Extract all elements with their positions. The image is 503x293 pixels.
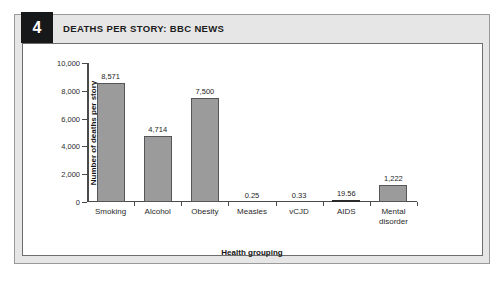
plot-frame: Number of deaths per story Health groupi… xyxy=(22,43,483,256)
x-axis-category-label: Smoking xyxy=(95,207,126,217)
bar-value-label: 7,500 xyxy=(195,87,214,96)
y-axis-tick-label: 4,000 xyxy=(61,142,80,151)
bar-group: 0.25Measles xyxy=(228,63,275,202)
bar-group: 8,571Smoking xyxy=(87,63,134,202)
bar-value-label: 0.25 xyxy=(245,191,260,200)
x-axis-category-label: Alcohol xyxy=(145,207,171,217)
y-axis-tick-label: 10,000 xyxy=(57,59,80,68)
x-axis-tick xyxy=(417,202,418,206)
figure-number-badge: 4 xyxy=(21,12,53,43)
x-axis-tick xyxy=(323,202,324,206)
figure-panel: 4 DEATHS PER STORY: BBC NEWS Number of d… xyxy=(14,14,490,264)
bar-value-label: 19.56 xyxy=(337,189,356,198)
x-axis-title: Health grouping xyxy=(87,248,417,257)
figure-root: 4 DEATHS PER STORY: BBC NEWS Number of d… xyxy=(0,0,503,293)
bar xyxy=(144,136,172,202)
x-axis-tick xyxy=(276,202,277,206)
x-axis-category-label: Measles xyxy=(237,207,267,217)
x-axis-tick xyxy=(370,202,371,206)
figure-title: DEATHS PER STORY: BBC NEWS xyxy=(63,23,224,34)
bar xyxy=(97,83,125,202)
x-axis-tick xyxy=(228,202,229,206)
bar xyxy=(191,98,219,202)
x-axis-category-label: Obesity xyxy=(191,207,218,217)
x-axis-category-label: AIDS xyxy=(337,207,356,217)
bar xyxy=(332,200,360,202)
bar-value-label: 8,571 xyxy=(101,72,120,81)
y-axis-tick xyxy=(82,202,87,203)
bar-group: 7,500Obesity xyxy=(181,63,228,202)
y-axis-tick-label: 2,000 xyxy=(61,170,80,179)
bar-value-label: 4,714 xyxy=(148,125,167,134)
x-axis-category-label: vCJD xyxy=(289,207,309,217)
bar-group: 1,222Mental disorder xyxy=(370,63,417,202)
bar-group: 19.56AIDS xyxy=(323,63,370,202)
x-axis-category-label: Mental disorder xyxy=(379,207,408,227)
y-axis-tick-label: 8,000 xyxy=(61,86,80,95)
y-axis-tick-label: 0 xyxy=(76,198,80,207)
x-axis-tick xyxy=(181,202,182,206)
bar-group: 4,714Alcohol xyxy=(134,63,181,202)
bar-value-label: 1,222 xyxy=(384,174,403,183)
bar-group: 0.33vCJD xyxy=(276,63,323,202)
bar xyxy=(379,185,407,202)
x-axis-tick xyxy=(134,202,135,206)
y-axis-tick-label: 6,000 xyxy=(61,114,80,123)
bar-value-label: 0.33 xyxy=(292,191,307,200)
chart-plot-area: Number of deaths per story Health groupi… xyxy=(87,63,417,202)
